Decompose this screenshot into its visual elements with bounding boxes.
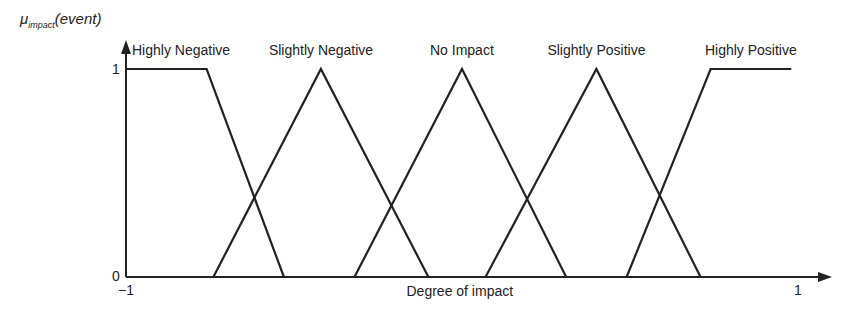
series-label: Highly Negative xyxy=(132,42,230,58)
series-label: Slightly Negative xyxy=(269,42,373,58)
series-label: Highly Positive xyxy=(705,42,797,58)
y-tick-1: 1 xyxy=(112,61,120,77)
series-highly-positive xyxy=(627,69,792,277)
series-no-impact xyxy=(354,69,566,277)
x-tick-1: 1 xyxy=(794,282,802,298)
series-label: Slightly Positive xyxy=(547,42,645,58)
series-highly-negative xyxy=(126,69,284,277)
x-tick-minus-1: −1 xyxy=(118,282,134,298)
x-axis-label: Degree of impact xyxy=(407,283,514,299)
series-label: No Impact xyxy=(430,42,494,58)
